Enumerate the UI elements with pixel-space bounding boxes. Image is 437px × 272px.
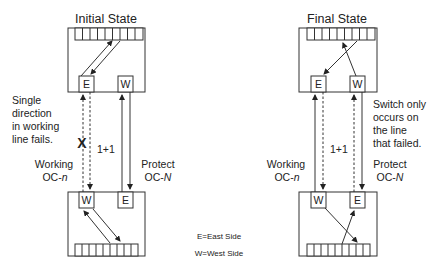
svg-text:Working: Working	[267, 158, 305, 170]
svg-text:OC-N: OC-N	[145, 171, 172, 183]
final-state-diagram: Final State E W W E	[267, 12, 427, 256]
switch-note: Switch only occurs on the line that fail…	[373, 98, 427, 149]
initial-state-title: Initial State	[75, 12, 137, 26]
failure-x-mark: X	[77, 135, 87, 151]
protect-line-label: Protect OC-N	[141, 158, 174, 183]
svg-text:line fails.: line fails.	[12, 133, 53, 145]
west-port-label: W	[121, 78, 131, 90]
left-bottom-node: W E	[68, 192, 145, 256]
west-port-label: W	[82, 194, 92, 206]
svg-text:that failed.: that failed.	[373, 137, 421, 149]
west-port-label: W	[353, 78, 363, 90]
failure-note: Single direction in working line fails.	[12, 94, 59, 145]
svg-text:Protect: Protect	[141, 158, 174, 170]
svg-text:Protect: Protect	[373, 158, 406, 170]
working-line-label: Working OC-n	[35, 158, 73, 183]
left-top-node: E W	[68, 28, 145, 92]
register-strip	[307, 28, 375, 40]
protect-line-label: Protect OC-N	[373, 158, 406, 183]
svg-text:Switch only: Switch only	[373, 98, 427, 110]
right-top-node: E W	[299, 28, 377, 92]
west-port-label: W	[314, 194, 324, 206]
svg-text:the line: the line	[373, 124, 407, 136]
legend-east: E=East Side	[197, 232, 242, 241]
aps-switching-diagram: Initial State E W W E	[0, 0, 437, 272]
scheme-label: 1+1	[97, 143, 115, 155]
east-port-label: E	[354, 194, 361, 206]
right-bottom-node: W E	[299, 192, 377, 256]
svg-text:OC-N: OC-N	[377, 171, 404, 183]
svg-text:occurs on: occurs on	[373, 111, 419, 123]
east-port-label: E	[315, 78, 322, 90]
svg-text:direction: direction	[12, 107, 52, 119]
svg-text:OC-n: OC-n	[274, 171, 299, 183]
register-strip	[307, 244, 370, 256]
east-port-label: E	[83, 78, 90, 90]
svg-text:Single: Single	[12, 94, 41, 106]
register-strip	[75, 28, 143, 40]
register-strip	[75, 244, 138, 256]
legend-west: W=West Side	[195, 249, 244, 258]
final-state-title: Final State	[307, 12, 367, 26]
svg-text:OC-n: OC-n	[42, 171, 67, 183]
svg-text:Working: Working	[35, 158, 73, 170]
legend: E=East Side W=West Side	[195, 232, 244, 258]
working-line-label: Working OC-n	[267, 158, 305, 183]
scheme-label: 1+1	[330, 143, 348, 155]
svg-text:in working: in working	[12, 120, 59, 132]
initial-state-diagram: Initial State E W W E	[12, 12, 175, 256]
east-port-label: E	[122, 194, 129, 206]
